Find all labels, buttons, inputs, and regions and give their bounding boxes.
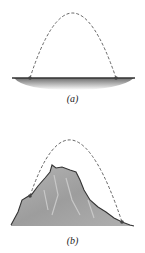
trajectory-arc bbox=[30, 13, 116, 78]
landing-point bbox=[120, 220, 124, 224]
diagram-canvas bbox=[0, 0, 145, 253]
figure-a bbox=[12, 13, 135, 90]
figure-b-caption: (b) bbox=[0, 235, 145, 246]
landing-point bbox=[114, 76, 118, 80]
ground-shading bbox=[14, 78, 134, 90]
figure-a-caption: (a) bbox=[0, 93, 145, 104]
launch-point bbox=[28, 76, 32, 80]
figure-b bbox=[11, 140, 134, 226]
launch-point bbox=[28, 194, 32, 198]
